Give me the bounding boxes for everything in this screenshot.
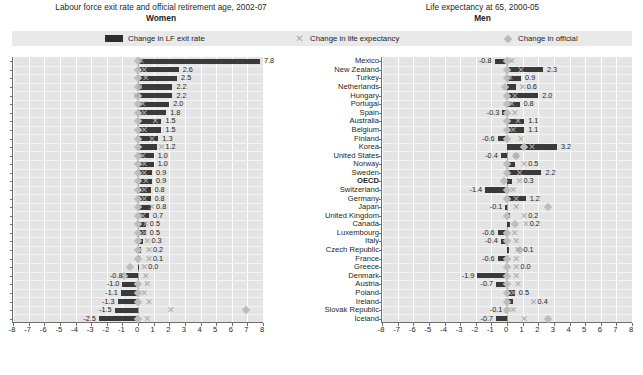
- right-panel-title: Life expectancy at 65, 2000-05 Men: [322, 2, 643, 24]
- y-axis-tick: [10, 199, 13, 200]
- gridline-horizontal: [382, 151, 632, 152]
- y-axis-tick: [10, 233, 13, 234]
- y-axis-tick: [10, 284, 13, 285]
- bar-value-label: -1.5: [99, 306, 112, 313]
- y-axis-tick: [379, 78, 382, 79]
- bar-value-label: 2.2: [176, 83, 186, 90]
- y-axis-tick: [10, 113, 13, 114]
- bar-value-label: 0.8: [155, 195, 165, 202]
- x-axis-tick-label: 3: [545, 325, 561, 334]
- bar-value-label: -1.3: [102, 298, 115, 305]
- bar-value-label: -0.7: [480, 315, 493, 322]
- bar-value-label: -1.1: [105, 289, 118, 296]
- y-axis-tick: [379, 181, 382, 182]
- bar: [501, 153, 507, 158]
- bar-value-label: 0.5: [519, 289, 529, 296]
- left-title-sub: Women: [0, 13, 322, 24]
- bar-value-label: 2.2: [545, 169, 555, 176]
- bar-value-label: -0.7: [480, 281, 493, 288]
- bar-value-label: 0.2: [153, 246, 163, 253]
- x-axis-tick-label: -4: [436, 325, 452, 334]
- x-axis-tick-label: 5: [576, 325, 592, 334]
- gridline-vertical: [60, 57, 61, 322]
- y-axis-tick: [379, 276, 382, 277]
- bar-value-label: -0.8: [110, 272, 123, 279]
- cross-marker: ✕: [167, 306, 175, 315]
- bar-value-label: 1.5: [165, 118, 175, 125]
- legend-item-life-expectancy: ✕ Change in life expectancy: [294, 31, 399, 46]
- bar-swatch-icon: [105, 35, 123, 42]
- y-axis-tick: [10, 190, 13, 191]
- y-axis-tick: [379, 284, 382, 285]
- cross-marker: ✕: [151, 117, 159, 126]
- right-title-main: Life expectancy at 65, 2000-05: [322, 2, 643, 13]
- plot-area-women: ✕7.8✕2.6✕2.5✕2.2✕2.2✕2.0✕1.8✕1.5✕1.5✕1.3…: [12, 57, 263, 323]
- y-axis-tick: [10, 302, 13, 303]
- x-axis-tick-label: -1: [113, 325, 129, 334]
- x-axis-tick-label: -2: [98, 325, 114, 334]
- bar: [496, 316, 507, 321]
- legend: Change in LF exit rate ✕ Change in life …: [12, 31, 632, 46]
- x-axis-women: -8-7-6-5-4-3-2-1012345678: [12, 325, 263, 337]
- x-axis-tick-label: -7: [20, 325, 36, 334]
- diamond-marker: [543, 314, 551, 322]
- bar-value-label: -0.6: [482, 135, 495, 142]
- x-axis-tick-label: 0: [129, 325, 145, 334]
- x-axis-tick-label: 6: [592, 325, 608, 334]
- bar-value-label: -1.4: [470, 186, 483, 193]
- y-axis-tick: [10, 267, 13, 268]
- bar-value-label: 2.2: [176, 92, 186, 99]
- bar-value-label: -0.4: [485, 238, 498, 245]
- x-axis-men: -8-7-6-5-4-3-2-1012345678: [381, 325, 632, 337]
- bar: [507, 170, 541, 175]
- y-axis-tick: [379, 173, 382, 174]
- cross-marker: ✕: [148, 134, 156, 143]
- cross-marker: ✕: [513, 151, 521, 160]
- bar-value-label: 0.5: [150, 229, 160, 236]
- gridline-vertical: [585, 57, 586, 322]
- y-axis-tick: [379, 190, 382, 191]
- right-title-sub: Men: [322, 13, 643, 24]
- bar-value-label: 0.9: [156, 178, 166, 185]
- x-axis-tick-label: -5: [51, 325, 67, 334]
- chart-page: Labour force exit rate and official reti…: [0, 0, 643, 375]
- y-axis-tick: [379, 267, 382, 268]
- y-axis-tick: [10, 121, 13, 122]
- gridline-horizontal: [13, 272, 263, 273]
- x-axis-tick-label: 7: [607, 325, 623, 334]
- gridline-vertical: [538, 57, 539, 322]
- y-axis-tick: [10, 61, 13, 62]
- cross-marker: ✕: [519, 83, 527, 92]
- bar-value-label: -1.9: [462, 272, 475, 279]
- cross-marker: ✕: [506, 74, 514, 83]
- bar: [99, 316, 138, 321]
- bar: [138, 59, 260, 64]
- bar-value-label: 0.7: [153, 212, 163, 219]
- bar-value-label: 0.0: [520, 264, 530, 271]
- titles-area: Labour force exit rate and official reti…: [0, 0, 643, 30]
- gridline-horizontal: [382, 314, 632, 315]
- cross-marker: ✕: [517, 65, 525, 74]
- y-axis-tick: [379, 164, 382, 165]
- bar-value-label: 0.4: [538, 298, 548, 305]
- legend-label-2: Change in life expectancy: [310, 34, 399, 43]
- y-axis-tick: [379, 61, 382, 62]
- bar-value-label: 2.5: [181, 75, 191, 82]
- x-axis-tick-label: 4: [561, 325, 577, 334]
- bar: [507, 67, 543, 72]
- x-axis-tick-label: -8: [4, 325, 20, 334]
- x-axis-tick-label: -5: [420, 325, 436, 334]
- bar-value-label: 2.6: [183, 66, 193, 73]
- bar-value-label: 1.0: [158, 161, 168, 168]
- x-axis-tick-label: 3: [176, 325, 192, 334]
- x-axis-tick-label: -6: [404, 325, 420, 334]
- cross-marker: ✕: [140, 125, 148, 134]
- bar: [505, 205, 507, 210]
- y-axis-tick: [10, 293, 13, 294]
- cross-marker-icon: ✕: [294, 35, 305, 43]
- y-axis-tick: [10, 104, 13, 105]
- legend-label-3: Change in official: [518, 34, 578, 43]
- y-axis-tick: [10, 250, 13, 251]
- diamond-marker: [503, 263, 511, 271]
- y-axis-tick: [10, 241, 13, 242]
